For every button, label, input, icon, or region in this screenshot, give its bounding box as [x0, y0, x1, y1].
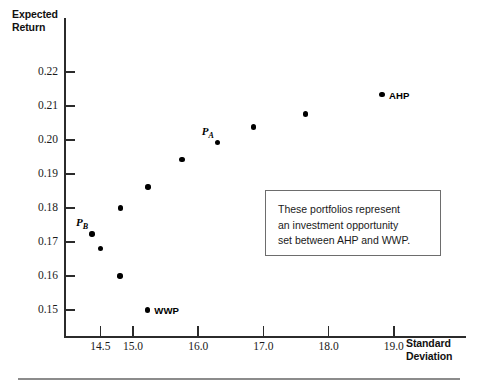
data-point — [118, 205, 123, 210]
y-axis-tick — [66, 309, 75, 311]
footer-divider — [18, 378, 460, 380]
y-axis-tick — [66, 71, 75, 73]
data-point — [145, 184, 150, 189]
y-axis-tick-label: 0.17 — [12, 235, 58, 247]
x-axis-tick-label: 16.0 — [175, 340, 221, 352]
y-axis-tick-label: 0.16 — [12, 269, 58, 281]
annotation-box: These portfolios represent an investment… — [265, 190, 441, 256]
x-axis-tick — [100, 326, 102, 336]
data-point — [145, 307, 150, 312]
y-axis-tick — [66, 139, 75, 141]
x-axis-line — [64, 336, 466, 338]
annotation-text: These portfolios represent an investment… — [278, 202, 410, 249]
x-axis-tick — [197, 326, 199, 336]
chart-canvas: Expected Return Standard Deviation 0.220… — [0, 0, 478, 388]
x-axis-tick — [263, 326, 265, 336]
data-point — [179, 157, 184, 162]
y-axis-tick-label: 0.20 — [12, 133, 58, 145]
data-point — [117, 273, 122, 278]
y-axis-title: Expected Return — [12, 8, 58, 33]
x-axis-tick-label: 18.0 — [306, 340, 352, 352]
x-axis-tick — [132, 326, 134, 336]
y-axis-tick-label: 0.15 — [12, 303, 58, 315]
data-point — [98, 246, 103, 251]
y-axis-line — [64, 18, 66, 338]
y-axis-tick — [66, 207, 75, 209]
data-point — [89, 231, 94, 236]
x-axis-tick-label: 17.0 — [240, 340, 286, 352]
data-point-label: PA — [202, 125, 214, 140]
y-axis-tick — [66, 105, 75, 107]
x-axis-tick-label: 15.0 — [110, 340, 156, 352]
y-axis-tick-label: 0.19 — [12, 167, 58, 179]
data-point — [215, 140, 220, 145]
data-point — [303, 111, 308, 116]
x-axis-tick — [328, 326, 330, 336]
data-point-label: WWP — [154, 305, 179, 316]
data-point-label: PB — [76, 216, 88, 231]
data-point — [251, 124, 256, 129]
x-axis-tick — [393, 326, 395, 336]
y-axis-tick-label: 0.21 — [12, 99, 58, 111]
y-axis-tick-label: 0.18 — [12, 201, 58, 213]
data-point-label: AHP — [389, 90, 409, 101]
data-point — [379, 92, 384, 97]
y-axis-tick — [66, 173, 75, 175]
y-axis-tick-label: 0.22 — [12, 65, 58, 77]
x-axis-tick-label: 19.0 — [371, 340, 417, 352]
y-axis-tick — [66, 275, 75, 277]
y-axis-tick — [66, 241, 75, 243]
